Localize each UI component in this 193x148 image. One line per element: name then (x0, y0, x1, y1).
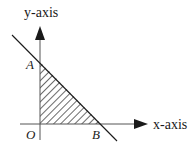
y-axis-arrow-icon (35, 26, 45, 40)
diagram-canvas: y-axis x-axis A B O (0, 0, 193, 148)
origin-label: O (26, 128, 35, 141)
shaded-triangle-oab (40, 62, 101, 124)
line-ab (12, 35, 117, 141)
point-a-label: A (26, 58, 34, 71)
y-axis-label: y-axis (24, 6, 58, 20)
x-axis-arrow-icon (134, 119, 148, 129)
x-axis-label: x-axis (153, 118, 187, 132)
point-b-label: B (92, 128, 100, 141)
